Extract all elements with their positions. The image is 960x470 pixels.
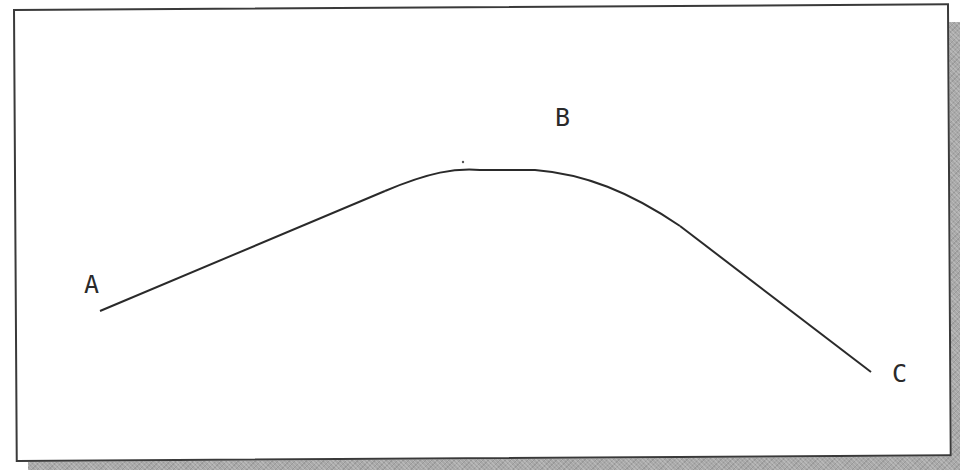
curve-drawing (0, 0, 960, 470)
point-label-c: C (892, 361, 907, 386)
stray-point-mark (462, 161, 464, 163)
line-segment-arc-to-c (680, 226, 871, 372)
point-label-a: A (84, 272, 99, 297)
point-label-b: B (555, 105, 570, 130)
arc-segment-b (385, 170, 680, 226)
line-segment-a-to-arc (100, 191, 385, 311)
